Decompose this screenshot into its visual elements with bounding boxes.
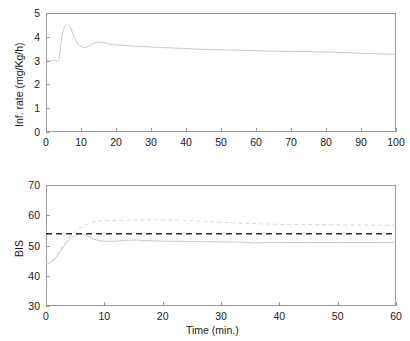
series-bis-measured <box>46 234 396 264</box>
y-tick-mark <box>46 108 50 109</box>
y-tick-mark <box>46 276 50 277</box>
y-tick-label: 3 <box>2 56 40 67</box>
y-tick-mark <box>46 246 50 247</box>
x-tick-label: 80 <box>306 137 346 148</box>
y-tick-mark <box>46 37 50 38</box>
panel-infusion-rate: Inf. rate (mg/Kg/h) 01020304050607080901… <box>0 0 410 170</box>
x-tick-label: 30 <box>131 137 171 148</box>
series-infusion-rate <box>46 25 396 61</box>
y-tick-label: 0 <box>2 127 40 138</box>
x-tick-label: 20 <box>143 311 183 322</box>
y-tick-label: 50 <box>2 241 40 252</box>
y-tick-mark <box>46 84 50 85</box>
y-tick-mark <box>46 306 50 307</box>
x-tick-label: 0 <box>26 137 66 148</box>
x-tick-label: 60 <box>376 311 410 322</box>
y-tick-label: 5 <box>2 8 40 19</box>
x-tick-label: 50 <box>201 137 241 148</box>
x-tick-label: 40 <box>166 137 206 148</box>
x-tick-mark <box>186 128 187 132</box>
x-tick-label: 0 <box>26 311 66 322</box>
x-tick-label: 70 <box>271 137 311 148</box>
x-tick-mark <box>221 302 222 306</box>
x-tick-mark <box>151 128 152 132</box>
y-tick-label: 2 <box>2 79 40 90</box>
y-tick-mark <box>46 132 50 133</box>
panel-bis: BIS Time (min.) 01020304050603040506070 <box>0 170 410 341</box>
x-tick-mark <box>104 302 105 306</box>
x-tick-mark <box>81 128 82 132</box>
x-tick-mark <box>256 128 257 132</box>
x-tick-mark <box>396 128 397 132</box>
x-tick-mark <box>338 302 339 306</box>
y-tick-mark <box>46 13 50 14</box>
x-axis-label-bis: Time (min.) <box>186 325 239 336</box>
x-tick-mark <box>291 128 292 132</box>
y-tick-mark <box>46 215 50 216</box>
y-tick-label: 1 <box>2 103 40 114</box>
x-tick-label: 90 <box>341 137 381 148</box>
y-tick-label: 60 <box>2 210 40 221</box>
x-tick-label: 50 <box>318 311 358 322</box>
y-tick-label: 70 <box>2 180 40 191</box>
x-tick-label: 20 <box>96 137 136 148</box>
x-tick-label: 60 <box>236 137 276 148</box>
y-tick-mark <box>46 61 50 62</box>
x-tick-mark <box>221 128 222 132</box>
x-tick-mark <box>396 302 397 306</box>
y-tick-label: 4 <box>2 32 40 43</box>
x-tick-mark <box>326 128 327 132</box>
y-tick-label: 30 <box>2 301 40 312</box>
x-tick-label: 30 <box>201 311 241 322</box>
y-tick-mark <box>46 185 50 186</box>
x-tick-label: 10 <box>61 137 101 148</box>
x-tick-mark <box>163 302 164 306</box>
figure-container: Inf. rate (mg/Kg/h) 01020304050607080901… <box>0 0 410 341</box>
x-tick-mark <box>116 128 117 132</box>
x-tick-label: 100 <box>376 137 410 148</box>
x-tick-label: 40 <box>259 311 299 322</box>
y-tick-label: 40 <box>2 271 40 282</box>
x-tick-label: 10 <box>84 311 124 322</box>
x-tick-mark <box>361 128 362 132</box>
x-tick-mark <box>279 302 280 306</box>
